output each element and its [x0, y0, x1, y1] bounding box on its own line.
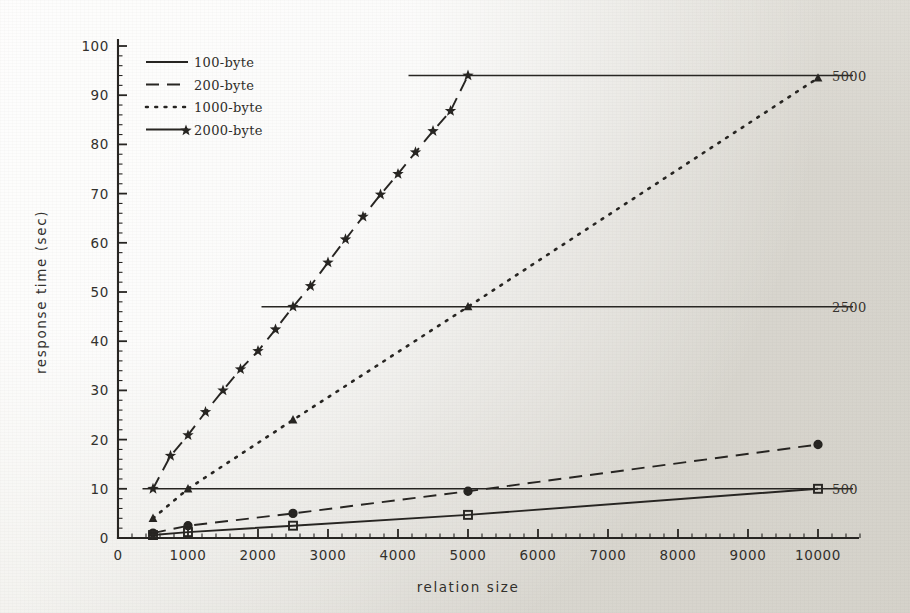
y-tick-label: 10	[91, 481, 109, 497]
x-tick-label: 0	[113, 547, 122, 563]
y-tick-label: 0	[100, 530, 109, 546]
y-tick-label: 40	[91, 333, 109, 349]
y-tick-label: 80	[91, 136, 109, 152]
legend-label: 1000-byte	[194, 100, 263, 115]
legend-label: 200-byte	[194, 78, 254, 93]
reference-line-label: 5000	[832, 69, 867, 84]
series-1000-byte	[149, 73, 823, 522]
x-tick-label: 9000	[730, 547, 767, 563]
series-line	[153, 78, 818, 518]
chart-svg: 0100020003000400050006000700080009000100…	[0, 0, 910, 613]
series-markers	[149, 485, 822, 539]
series-markers	[149, 73, 823, 522]
legend-label: 2000-byte	[194, 123, 263, 138]
series-line	[153, 489, 818, 535]
reference-line-label: 2500	[832, 300, 867, 315]
x-tick-label: 1000	[170, 547, 207, 563]
y-tick-label: 70	[91, 186, 109, 202]
y-tick-label: 100	[81, 38, 109, 54]
x-tick-label: 7000	[590, 547, 627, 563]
reference-line-label: 500	[832, 482, 858, 497]
x-tick-label: 5000	[450, 547, 487, 563]
legend-entry-2000-byte	[146, 125, 192, 136]
x-tick-label: 6000	[520, 547, 557, 563]
y-tick-label: 20	[91, 432, 109, 448]
y-tick-label: 30	[91, 382, 109, 398]
chart-figure: 0100020003000400050006000700080009000100…	[0, 0, 910, 613]
series-100-byte	[149, 485, 822, 539]
x-tick-label: 3000	[310, 547, 347, 563]
y-axis-title: response time (sec)	[33, 210, 49, 374]
x-tick-label: 10000	[795, 547, 841, 563]
x-tick-label: 4000	[380, 547, 417, 563]
y-tick-label: 60	[91, 235, 109, 251]
x-tick-label: 2000	[240, 547, 277, 563]
x-tick-label: 8000	[660, 547, 697, 563]
x-axis-title: relation size	[417, 579, 520, 595]
legend-label: 100-byte	[194, 55, 254, 70]
y-tick-label: 50	[91, 284, 109, 300]
y-tick-label: 90	[91, 87, 109, 103]
